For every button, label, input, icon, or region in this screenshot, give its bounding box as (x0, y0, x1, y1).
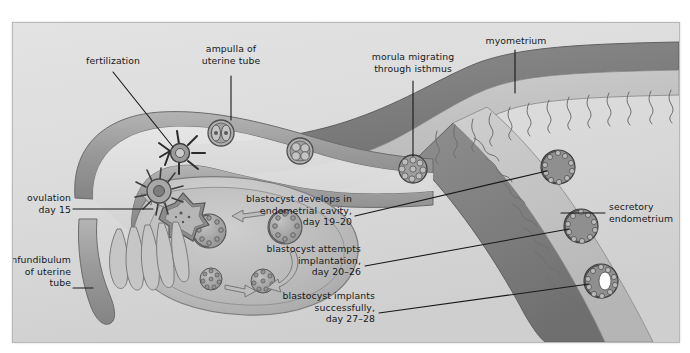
label-blastocyst-implants: blastocyst implants successfully, day 27… (247, 290, 375, 325)
blastocyst-attempting (564, 209, 598, 244)
label-secretory-endometrium: secretory endometrium (609, 201, 680, 224)
two-cell-embryo (208, 120, 234, 146)
four-cell-embryo (287, 138, 313, 164)
label-blastocyst-develops: blastocyst develops in endometrial cavit… (218, 193, 352, 228)
label-infundibulum: infundibulum of uterine tube (12, 254, 71, 289)
label-ampulla: ampulla of uterine tube (183, 43, 279, 66)
label-blastocyst-attempts: blastocyst attempts implantation, day 20… (231, 243, 361, 278)
diagram-panel: fertilization ampulla of uterine tube mo… (12, 22, 680, 343)
blastocyst-in-cavity (541, 150, 575, 185)
label-ovulation: ovulation day 15 (12, 192, 71, 215)
label-morula: morula migrating through isthmus (353, 51, 473, 74)
figure-canvas: fertilization ampulla of uterine tube mo… (0, 0, 690, 353)
morula (399, 155, 427, 183)
follicle-small-left (200, 268, 222, 290)
blastocyst-implanted (584, 264, 618, 299)
label-fertilization: fertilization (57, 55, 169, 67)
label-myometrium: myometrium (471, 35, 561, 47)
